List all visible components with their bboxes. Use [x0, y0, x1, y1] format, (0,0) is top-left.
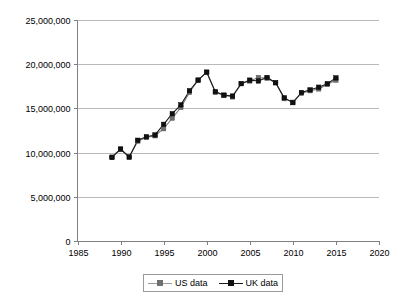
- y-axis-tick-label: 15,000,000: [25, 104, 70, 114]
- x-axis-tick-label: 2010: [283, 248, 303, 258]
- data-point-marker: [334, 76, 338, 80]
- y-axis-tick-label: 10,000,000: [25, 149, 70, 159]
- y-axis-labels-group: 05,000,00010,000,00015,000,00020,000,000…: [25, 16, 70, 247]
- data-point-marker: [161, 127, 165, 131]
- legend-marker-us: [157, 280, 163, 286]
- data-point-marker: [291, 100, 295, 104]
- x-axis-tick-label: 1995: [154, 248, 174, 258]
- y-axis-tick-label: 5,000,000: [30, 193, 70, 203]
- x-axis-tick-label: 2020: [369, 248, 389, 258]
- data-point-marker: [325, 81, 329, 85]
- x-axis-tick-label: 2000: [197, 248, 217, 258]
- legend-item-us-data: US data: [148, 279, 208, 288]
- legend-label-uk: UK data: [246, 279, 279, 288]
- legend-item-uk-data: UK data: [219, 279, 279, 288]
- data-point-marker: [222, 93, 226, 97]
- legend-swatch-uk-icon: [219, 279, 243, 288]
- data-point-marker: [170, 116, 174, 120]
- y-axis-tick-label: 25,000,000: [25, 16, 70, 26]
- data-point-marker: [136, 138, 140, 142]
- data-point-marker: [187, 89, 191, 93]
- data-point-marker: [118, 147, 122, 151]
- data-point-marker: [282, 96, 286, 100]
- y-axis-tick-label: 0: [65, 237, 70, 247]
- data-point-marker: [110, 155, 114, 159]
- line-chart-plot: 05,000,00010,000,00015,000,00020,000,000…: [0, 0, 397, 303]
- data-point-marker: [127, 155, 131, 159]
- legend-swatch-us-icon: [148, 279, 172, 288]
- x-axis-tick-label: 2015: [326, 248, 346, 258]
- data-point-marker: [205, 70, 209, 74]
- x-axis-tick-label: 1985: [68, 248, 88, 258]
- data-point-marker: [230, 94, 234, 98]
- data-point-marker: [317, 85, 321, 89]
- x-axis-tick-label: 2005: [240, 248, 260, 258]
- data-point-marker: [265, 75, 269, 79]
- data-point-marker: [179, 103, 183, 107]
- data-point-marker: [308, 88, 312, 92]
- chart-legend: US data UK data: [143, 274, 283, 292]
- series-line-uk: [112, 72, 336, 157]
- legend-marker-uk: [228, 280, 234, 286]
- data-point-marker: [273, 81, 277, 85]
- x-axis-labels-group: 19851990199520002005201020152020: [68, 248, 389, 258]
- gridlines-group: [78, 21, 380, 198]
- data-point-marker: [196, 78, 200, 82]
- data-point-marker: [256, 79, 260, 83]
- y-axis-tick-label: 20,000,000: [25, 60, 70, 70]
- data-point-marker: [213, 89, 217, 93]
- x-axis-tick-label: 1990: [111, 248, 131, 258]
- data-point-marker: [248, 78, 252, 82]
- series-line-us: [112, 72, 336, 157]
- y-axis-ticks-group: [74, 21, 78, 242]
- data-point-marker: [170, 112, 174, 116]
- chart-container: 05,000,00010,000,00015,000,00020,000,000…: [0, 0, 397, 303]
- data-point-marker: [144, 134, 148, 138]
- series-lines-group: [112, 72, 336, 157]
- data-point-marker: [153, 133, 157, 137]
- series-markers-group: [110, 70, 338, 160]
- data-point-marker: [239, 81, 243, 85]
- legend-label-us: US data: [175, 279, 208, 288]
- data-point-marker: [299, 90, 303, 94]
- data-point-marker: [161, 122, 165, 126]
